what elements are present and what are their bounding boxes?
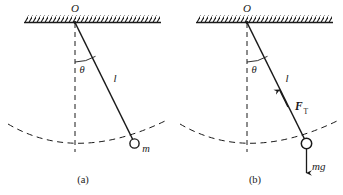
angle-label-b: θ — [251, 64, 256, 75]
ceiling-hatch-b — [197, 16, 332, 23]
panel-a: O θ l m (a) — [8, 2, 165, 186]
ceiling-hatch-a — [25, 16, 160, 23]
tension-symbol: F — [294, 100, 303, 112]
pendulum-figure: O θ l m (a) — [0, 0, 343, 195]
swing-arc-a — [8, 121, 165, 143]
pendulum-bob-b — [301, 138, 311, 148]
panel-b: O θ l F T — [180, 2, 337, 186]
swing-arc-b — [180, 121, 337, 143]
pivot-label-a: O — [71, 2, 79, 14]
ceiling-a — [24, 16, 161, 23]
string-b — [247, 23, 305, 141]
pendulum-bob-a — [130, 139, 139, 148]
angle-label-a: θ — [79, 64, 84, 75]
tension-vector-b — [280, 90, 289, 107]
tension-subscript: T — [304, 107, 309, 116]
panel-caption-a: (a) — [77, 174, 89, 186]
length-label-a: l — [113, 72, 116, 84]
panel-caption-b: (b) — [249, 174, 262, 186]
pendulum-diagram-svg: O θ l m (a) — [0, 0, 343, 195]
weight-label-b: mg — [312, 160, 326, 172]
string-a — [75, 23, 133, 141]
pivot-label-b: O — [243, 2, 251, 14]
mass-label-a: m — [142, 143, 150, 154]
tension-label-b: F T — [294, 100, 309, 116]
length-label-b: l — [285, 72, 288, 84]
ceiling-b — [196, 16, 333, 23]
